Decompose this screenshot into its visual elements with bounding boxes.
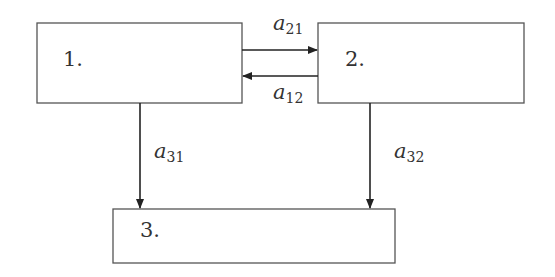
edge-1-to-2: a21: [242, 11, 317, 50]
edge-1-to-3: a31: [140, 103, 184, 208]
node-3-label: 3.: [140, 218, 160, 242]
node-2: 2.: [318, 23, 524, 103]
edge-2-to-1: a12: [243, 76, 318, 106]
edge-label-a21: a21: [273, 11, 303, 37]
node-1: 1.: [37, 23, 242, 103]
edge-label-a12: a12: [273, 80, 303, 106]
edge-label-a32: a32: [394, 139, 424, 165]
node-2-label: 2.: [345, 47, 365, 71]
edge-2-to-3: a32: [370, 103, 424, 208]
edge-label-a31: a31: [154, 139, 184, 165]
compartment-diagram: 1. 2. 3. a21 a12 a31 a32: [0, 0, 555, 277]
node-1-label: 1.: [63, 47, 83, 71]
node-3: 3.: [113, 209, 395, 263]
